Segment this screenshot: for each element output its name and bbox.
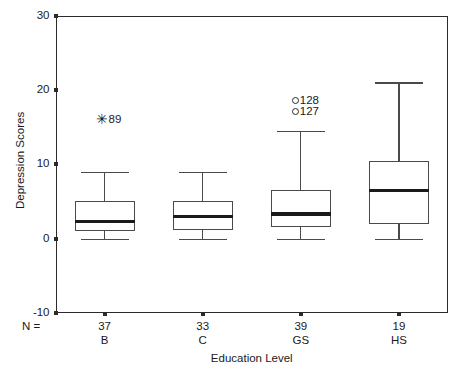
x-tick-category-label: HS xyxy=(359,334,439,346)
whisker-cap-upper xyxy=(179,172,227,173)
median-line xyxy=(369,189,429,192)
whisker-cap-lower xyxy=(277,239,325,240)
y-tick-label: 20 xyxy=(2,84,50,96)
extreme-outlier-marker: ✳89 xyxy=(96,114,122,126)
whisker-lower xyxy=(104,231,105,238)
boxplot-figure: 3020100-10 37B33C39GS19HS ✳89128127 N = … xyxy=(0,0,462,374)
box-gs xyxy=(271,190,331,227)
whisker-cap-lower xyxy=(179,239,227,240)
x-tick-count-label: 39 xyxy=(261,320,341,332)
whisker-upper xyxy=(300,131,301,191)
whisker-lower xyxy=(300,227,301,238)
x-tick-mark xyxy=(201,312,205,316)
outlier-case-label: 127 xyxy=(300,106,319,118)
circle-icon xyxy=(292,108,299,115)
median-line xyxy=(173,215,233,218)
box-b xyxy=(75,201,135,231)
x-axis-title: Education Level xyxy=(56,352,449,364)
outlier-marker: 127 xyxy=(292,106,319,118)
x-tick-category-label: GS xyxy=(261,334,341,346)
x-tick-mark xyxy=(103,312,107,316)
outlier-case-label: 89 xyxy=(109,114,122,126)
x-tick-category-label: B xyxy=(65,334,145,346)
median-line xyxy=(271,212,331,215)
whisker-cap-upper xyxy=(375,82,423,83)
x-tick-category-label: C xyxy=(163,334,243,346)
whisker-cap-lower xyxy=(81,239,129,240)
n-equals-label: N = xyxy=(22,320,40,332)
x-tick-count-label: 19 xyxy=(359,320,439,332)
y-tick-mark xyxy=(54,162,58,166)
whisker-lower xyxy=(398,224,399,239)
whisker-cap-lower xyxy=(375,239,423,240)
x-tick-mark xyxy=(299,312,303,316)
y-tick-mark xyxy=(54,311,58,315)
whisker-lower xyxy=(202,230,203,239)
y-tick-label: 0 xyxy=(2,233,50,245)
asterisk-icon: ✳ xyxy=(96,115,108,123)
circle-icon xyxy=(292,97,299,104)
y-tick-mark xyxy=(54,88,58,92)
y-tick-label: -10 xyxy=(2,307,50,319)
whisker-upper xyxy=(202,172,203,202)
y-tick-mark xyxy=(54,14,58,18)
y-tick-mark xyxy=(54,237,58,241)
whisker-upper xyxy=(104,172,105,202)
x-tick-count-label: 33 xyxy=(163,320,243,332)
whisker-cap-upper xyxy=(277,131,325,132)
y-axis-title: Depression Scores xyxy=(14,112,26,209)
y-tick-label: 30 xyxy=(2,10,50,22)
median-line xyxy=(75,220,135,223)
box-hs xyxy=(369,161,429,224)
x-tick-count-label: 37 xyxy=(65,320,145,332)
whisker-upper xyxy=(398,82,399,160)
x-tick-mark xyxy=(397,312,401,316)
whisker-cap-upper xyxy=(81,172,129,173)
